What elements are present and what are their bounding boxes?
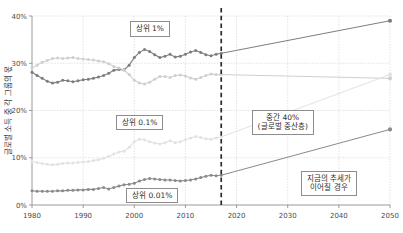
data-point (169, 178, 172, 181)
data-point (210, 138, 213, 141)
data-point (199, 176, 202, 179)
data-point (153, 78, 156, 81)
data-point (56, 189, 59, 192)
data-point (41, 61, 44, 64)
projection-line-상위 1% (221, 21, 390, 54)
data-point (66, 79, 69, 82)
data-point (204, 175, 207, 178)
data-point (112, 65, 115, 68)
projection-line-중간 40% (글로벌 중산층) (221, 75, 390, 79)
data-point (138, 138, 141, 141)
data-point (102, 74, 105, 77)
data-point (174, 56, 177, 59)
data-point (41, 190, 44, 193)
data-point (36, 190, 39, 193)
data-point (153, 142, 156, 145)
data-point (71, 56, 74, 59)
data-point (66, 57, 69, 60)
data-point (189, 76, 192, 79)
data-point (199, 76, 202, 79)
data-point (158, 56, 161, 59)
data-point (31, 71, 34, 74)
data-point (46, 163, 49, 166)
data-point (61, 79, 64, 82)
data-point (158, 75, 161, 78)
annotation-top-01-percent-text: 상위 0.1% (122, 118, 157, 127)
data-point (87, 58, 90, 61)
data-point (189, 50, 192, 53)
data-point (112, 69, 115, 72)
y-tick-label: 40% (11, 13, 27, 21)
y-tick-label: 20% (11, 107, 27, 115)
data-point (148, 177, 151, 180)
data-point (138, 179, 141, 182)
data-point (112, 152, 115, 155)
data-point (112, 186, 115, 189)
data-point (61, 57, 64, 60)
data-point (56, 163, 59, 166)
data-point (31, 189, 34, 192)
data-point (46, 80, 49, 83)
data-point (169, 139, 172, 142)
data-point (148, 140, 151, 143)
data-point (36, 64, 39, 67)
data-point (179, 140, 182, 143)
data-point (204, 53, 207, 56)
x-tick-label: 1990 (74, 212, 92, 220)
data-point (71, 80, 74, 83)
data-point (138, 82, 141, 85)
data-point (199, 51, 202, 54)
annotation-middle-40-line1: 중간 40% (258, 113, 308, 122)
data-point (133, 79, 136, 82)
data-point (31, 66, 34, 69)
projection-endpoint (388, 127, 392, 131)
annotation-top-01-percent: 상위 0.1% (116, 115, 163, 130)
data-point (133, 182, 136, 185)
data-point (82, 161, 85, 164)
data-point (128, 73, 131, 76)
data-point (143, 83, 146, 86)
data-point (102, 157, 105, 160)
annotation-current-trend: 지금의 추세가 이어질 경우 (301, 171, 357, 196)
data-point (107, 62, 110, 65)
data-point (163, 141, 166, 144)
data-point (107, 155, 110, 158)
data-point (128, 64, 131, 67)
data-point (133, 140, 136, 143)
data-point (36, 161, 39, 164)
data-point (189, 178, 192, 181)
data-point (92, 58, 95, 61)
data-point (153, 178, 156, 181)
data-point (77, 79, 80, 82)
data-point (61, 162, 64, 165)
y-tick-label: 30% (11, 60, 27, 68)
data-point (179, 55, 182, 58)
data-point (56, 57, 59, 60)
data-point (184, 138, 187, 141)
data-point (102, 186, 105, 189)
data-point (210, 174, 213, 177)
x-tick-label: 2040 (330, 212, 348, 220)
data-point (71, 189, 74, 192)
data-point (158, 143, 161, 146)
data-point (102, 60, 105, 63)
data-point (143, 178, 146, 181)
data-point (46, 59, 49, 62)
data-point (66, 161, 69, 164)
annotation-current-trend-line2: 이어질 경우 (307, 183, 351, 192)
data-point (71, 161, 74, 164)
data-point (143, 138, 146, 141)
data-point (123, 183, 126, 186)
data-point (46, 190, 49, 193)
data-point (123, 150, 126, 153)
x-tick-label: 2030 (279, 212, 297, 220)
data-point (179, 74, 182, 77)
data-point (77, 188, 80, 191)
data-point (174, 141, 177, 144)
data-point (117, 151, 120, 154)
annotation-middle-40-line2: (글로벌 중산층) (258, 122, 308, 131)
data-point (87, 160, 90, 163)
data-point (153, 53, 156, 56)
annotation-top-1-percent-text: 상위 1% (136, 24, 164, 33)
data-point (117, 185, 120, 188)
